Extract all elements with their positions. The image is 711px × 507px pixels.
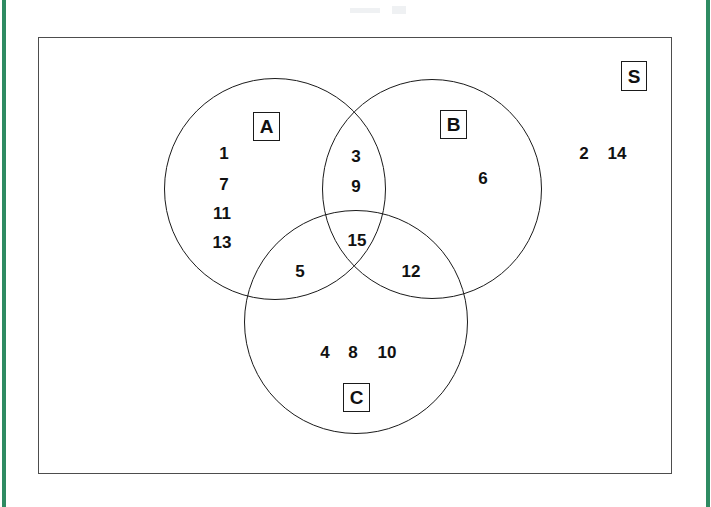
- venn-diagram-page: ABCS 171113648103951215214: [0, 0, 711, 507]
- element-5-in-A-and-C: 5: [295, 263, 304, 280]
- element-14-in-outside: 14: [608, 145, 627, 162]
- element-12-in-B-and-C: 12: [402, 263, 421, 280]
- element-15-in-A-and-B-and-C: 15: [348, 232, 367, 249]
- element-6-in-B-only: 6: [478, 170, 487, 187]
- element-9-in-A-and-B: 9: [351, 178, 360, 195]
- set-label-c: C: [343, 383, 370, 412]
- right-margin-rule: [706, 0, 710, 507]
- element-10-in-C-only: 10: [378, 344, 397, 361]
- set-label-a: A: [253, 112, 280, 141]
- element-4-in-C-only: 4: [320, 344, 329, 361]
- element-8-in-C-only: 8: [348, 344, 357, 361]
- left-margin-rule: [2, 0, 6, 507]
- element-1-in-A-only: 1: [219, 145, 228, 162]
- element-13-in-A-only: 13: [213, 234, 232, 251]
- set-label-b: B: [440, 110, 467, 139]
- scan-artifact: [350, 8, 380, 13]
- scan-artifact: [392, 6, 406, 14]
- element-7-in-A-only: 7: [219, 176, 228, 193]
- element-2-in-outside: 2: [579, 145, 588, 162]
- element-3-in-A-and-B: 3: [351, 148, 360, 165]
- set-label-s: S: [621, 61, 647, 91]
- element-11-in-A-only: 11: [213, 205, 231, 222]
